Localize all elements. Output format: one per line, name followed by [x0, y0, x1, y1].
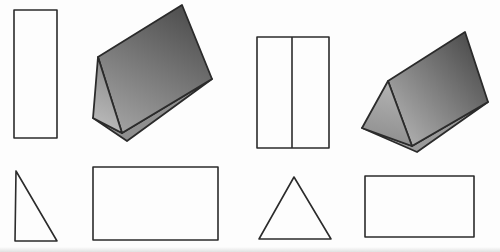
wide-rectangle-left: [93, 167, 218, 240]
shapes-canvas: [0, 0, 500, 252]
isosceles-triangle: [259, 177, 331, 239]
wide-rectangle-right: [365, 176, 474, 237]
divided-rectangle: [257, 37, 329, 148]
shapes-worksheet: [0, 0, 500, 252]
tall-rectangle: [14, 10, 57, 138]
right-triangle: [15, 171, 57, 241]
